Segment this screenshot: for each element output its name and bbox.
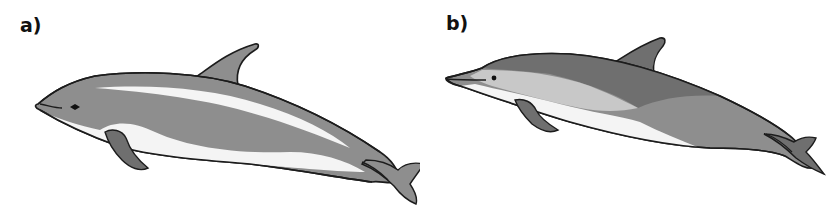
dolphin-b-illustration: [420, 0, 838, 215]
dolphin-a-illustration: [0, 0, 420, 215]
eye-icon: [492, 76, 497, 81]
panel-a: a): [0, 0, 420, 215]
panel-b: b): [420, 0, 838, 215]
